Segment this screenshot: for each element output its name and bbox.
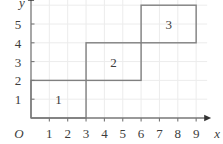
x-axis-tick-label-3: 3 — [83, 127, 90, 140]
x-axis-tick-label-7: 7 — [156, 127, 163, 140]
y-axis-tick-label-5: 5 — [15, 18, 22, 31]
plot-area — [0, 0, 223, 144]
x-axis-tick-label-9: 9 — [193, 127, 200, 140]
y-axis-tick-label-4: 4 — [15, 36, 22, 49]
region-label-2: 2 — [110, 55, 117, 68]
x-axis-tick-label-6: 6 — [138, 127, 145, 140]
x-axis-arrow-icon — [204, 115, 211, 121]
y-axis-arrow-icon — [28, 0, 34, 1]
region-label-1: 1 — [55, 93, 62, 106]
y-axis-tick-label-2: 2 — [15, 74, 22, 87]
ticks-group — [31, 24, 196, 122]
y-axis-name-label: y — [19, 0, 25, 8]
origin-label: O — [14, 127, 23, 140]
x-axis-tick-label-4: 4 — [101, 127, 108, 140]
x-axis-tick-label-2: 2 — [64, 127, 71, 140]
coordinate-grid-figure: 12345678912345Oxy123 — [0, 0, 223, 144]
x-axis-tick-label-1: 1 — [46, 127, 53, 140]
y-axis-tick-label-3: 3 — [15, 55, 22, 68]
y-axis-tick-label-1: 1 — [15, 93, 22, 106]
region-label-3: 3 — [165, 18, 172, 31]
x-axis-tick-label-8: 8 — [175, 127, 182, 140]
x-axis-name-label: x — [214, 127, 220, 140]
x-axis-tick-label-5: 5 — [120, 127, 127, 140]
